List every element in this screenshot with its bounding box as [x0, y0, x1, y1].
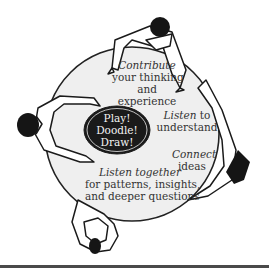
oval-line-doodle: Doodle!: [92, 124, 142, 136]
contribute-emphasis: Contribute: [112, 59, 182, 71]
listen-together-line3: and deeper questions: [85, 190, 195, 202]
contribute-line2: your thinking: [112, 71, 182, 83]
contribute-line4: experience: [112, 95, 182, 107]
diagram: Play! Doodle! Draw! Contribute your thin…: [0, 0, 269, 268]
oval-line-play: Play!: [92, 112, 142, 124]
listen-line2: understand: [156, 121, 218, 133]
listen-together-line2: for patterns, insights,: [85, 178, 195, 190]
listen-together-emphasis: Listen together: [85, 166, 195, 178]
label-listen-together: Listen together for patterns, insights, …: [85, 166, 195, 202]
connect-emphasis: Connect: [172, 148, 212, 160]
oval-line-draw: Draw!: [92, 136, 142, 148]
listen-rest: to: [197, 109, 211, 121]
listen-emphasis: Listen: [164, 109, 197, 121]
label-contribute: Contribute your thinking and experience: [112, 59, 182, 107]
contribute-line3: and: [112, 83, 182, 95]
label-listen-understand: Listen to understand: [156, 109, 218, 133]
center-oval-text: Play! Doodle! Draw!: [92, 112, 142, 148]
